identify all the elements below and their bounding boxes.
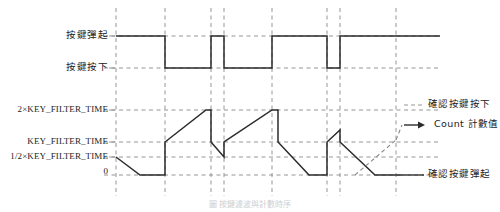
axis-label-key-filter-time: KEY_FILTER_TIME xyxy=(27,136,108,146)
count-arrow-head xyxy=(418,122,425,129)
axis-label-key-press: 按鍵按下 xyxy=(66,62,108,72)
timing-diagram-figure: 按鍵彈起按鍵按下 2×KEY_FILTER_TIMEKEY_FILTER_TIM… xyxy=(0,0,500,212)
annotation-count-value: Count 計數值 xyxy=(434,119,499,129)
axis-label-zero: 0 xyxy=(103,166,108,176)
axis-label-half-key-filter-time: 1/2×KEY_FILTER_TIME xyxy=(10,151,108,161)
annotation-confirm-key-press: 確認按鍵按下 xyxy=(428,99,490,109)
figure-caption: 圖 按鍵濾波與計數時序 xyxy=(0,198,500,209)
waveform-count xyxy=(116,110,424,175)
axis-label-key-release: 按鍵彈起 xyxy=(66,30,108,40)
axis-label-two-x-key-filter-time: 2×KEY_FILTER_TIME xyxy=(18,104,108,114)
count-projection-line xyxy=(355,140,396,175)
waveform-key-input xyxy=(116,36,440,68)
count-projection-elbow xyxy=(396,125,402,140)
annotation-confirm-key-release: 確認按鍵彈起 xyxy=(428,169,490,179)
